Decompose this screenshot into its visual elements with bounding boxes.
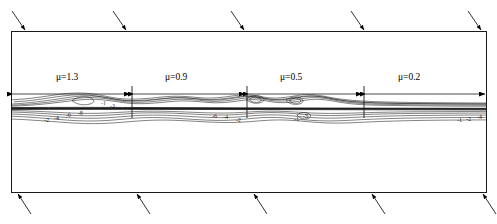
zone-label-mu-0-9: μ=0.9 <box>165 73 187 83</box>
contour-label: -1 <box>457 117 463 123</box>
contour-label: -2 <box>236 117 241 123</box>
zone-label-mu-0-5: μ=0.5 <box>280 73 302 83</box>
contour-label: -4 <box>477 114 483 121</box>
contour-label: -4 <box>54 115 60 122</box>
contour-label: -3 <box>303 113 309 120</box>
figure-canvas <box>0 0 497 224</box>
contour-label: -3 <box>110 103 116 109</box>
bottom-load-arrows <box>18 194 496 214</box>
contour-label: -8 <box>78 110 84 117</box>
zone-label-mu-1-3: μ=1.3 <box>56 73 78 83</box>
contour-label: -1 <box>294 116 300 122</box>
figure-container: μ=1.3 μ=0.9 μ=0.5 μ=0.2 -2 -4 -6 -8 -1 -… <box>0 0 497 224</box>
top-load-arrows <box>12 11 481 30</box>
contour-label: -4 <box>223 114 228 120</box>
contour-label: -6 <box>212 113 218 119</box>
zone-label-mu-0-2: μ=0.2 <box>398 73 420 83</box>
contour-label: -2 <box>44 117 50 123</box>
contour-label: -2 <box>466 116 472 122</box>
contour-label: -6 <box>66 112 72 119</box>
contour-label: -1 <box>101 100 107 107</box>
